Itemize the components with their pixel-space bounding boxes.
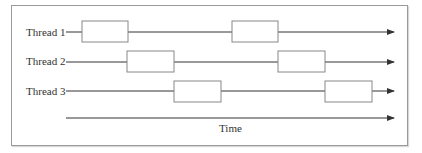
thread-1-execution-box-1	[82, 21, 128, 42]
thread-1-label: Thread 1	[26, 26, 65, 38]
thread-3-execution-box-2	[325, 81, 372, 102]
thread-2-timeline	[66, 51, 394, 72]
thread-1-timeline	[66, 21, 394, 42]
time-axis-label: Time	[219, 122, 242, 134]
thread-1-execution-box-2	[232, 21, 278, 42]
thread-2-execution-box-2	[278, 51, 325, 72]
thread-timeline-diagram	[0, 0, 422, 153]
thread-2-label: Thread 2	[26, 55, 65, 67]
thread-2-execution-box-1	[127, 51, 174, 72]
thread-3-timeline	[66, 81, 394, 102]
thread-3-label: Thread 3	[26, 85, 65, 97]
thread-3-execution-box-1	[174, 81, 221, 102]
